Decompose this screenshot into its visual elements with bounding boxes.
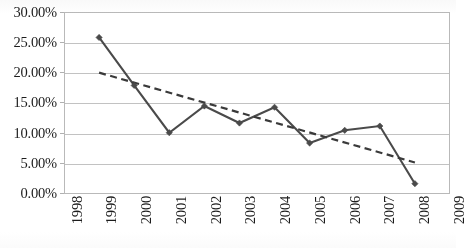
x-tick-label-2005: 2005 bbox=[313, 196, 328, 224]
x-axis: 1998 1999 2000 2001 2002 2003 2004 2005 … bbox=[0, 194, 456, 248]
y-tick-mark-20 bbox=[60, 72, 64, 73]
y-tick-mark-25 bbox=[60, 42, 64, 43]
y-tick-mark-5 bbox=[60, 163, 64, 164]
y-tick-label-5: 5.00% bbox=[21, 156, 57, 171]
y-axis: 30.00% 25.00% 20.00% 15.00% 10.00% 5.00%… bbox=[0, 0, 64, 206]
y-tick-mark-30 bbox=[60, 12, 64, 13]
x-tick-label-2004: 2004 bbox=[278, 196, 293, 224]
plot-area bbox=[64, 12, 450, 194]
gridline-5 bbox=[65, 164, 449, 165]
gridline-15 bbox=[65, 103, 449, 104]
x-tick-label-1999: 1999 bbox=[104, 196, 119, 224]
x-tick-label-1998: 1998 bbox=[70, 196, 85, 224]
gridline-25 bbox=[65, 43, 449, 44]
y-tick-mark-10 bbox=[60, 133, 64, 134]
y-tick-label-15: 15.00% bbox=[13, 95, 57, 110]
x-tick-label-2007: 2007 bbox=[382, 196, 397, 224]
x-tick-label-2000: 2000 bbox=[139, 196, 154, 224]
y-tick-label-25: 25.00% bbox=[13, 35, 57, 50]
x-tick-label-2001: 2001 bbox=[174, 196, 189, 224]
gridline-10 bbox=[65, 134, 449, 135]
y-tick-mark-15 bbox=[60, 102, 64, 103]
x-tick-label-2003: 2003 bbox=[243, 196, 258, 224]
y-tick-label-10: 10.00% bbox=[13, 126, 57, 141]
y-tick-label-20: 20.00% bbox=[13, 65, 57, 80]
x-tick-label-2009: 2009 bbox=[452, 196, 467, 224]
x-tick-label-2002: 2002 bbox=[209, 196, 224, 224]
x-tick-label-2008: 2008 bbox=[417, 196, 432, 224]
gridline-20 bbox=[65, 73, 449, 74]
y-tick-label-30: 30.00% bbox=[13, 5, 57, 20]
x-tick-label-2006: 2006 bbox=[348, 196, 363, 224]
